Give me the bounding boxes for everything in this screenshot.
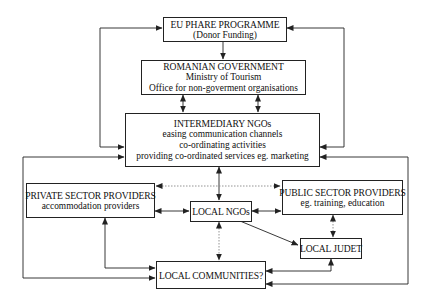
node-local-ngos: LOCAL NGOs — [190, 201, 252, 222]
node-private-sector-providers: PRIVATE SECTOR PROVIDERS accommodation p… — [26, 183, 155, 218]
node-line: Office for non-goverment organisations — [149, 83, 298, 94]
node-line: easing communication channels — [163, 129, 283, 140]
node-subtitle: (Donor Funding) — [193, 30, 257, 41]
node-public-sector-providers: PUBLIC SECTOR PROVIDERS eg. training, ed… — [282, 180, 403, 215]
node-title: LOCAL COMMUNITIES? — [159, 270, 263, 281]
node-line: eg. training, education — [301, 198, 385, 209]
node-title: ROMANIAN GOVERNMENT — [163, 61, 283, 72]
edge-private-communities — [105, 218, 155, 268]
node-title: PUBLIC SECTOR PROVIDERS — [279, 187, 406, 198]
node-line: accommodation providers — [42, 201, 140, 212]
organisation-flow-diagram: EU PHARE PROGRAMME (Donor Funding) ROMAN… — [0, 0, 428, 304]
edge-outer-right — [266, 157, 408, 284]
node-romanian-government: ROMANIAN GOVERNMENT Ministry of Tourism … — [141, 60, 306, 95]
node-title: EU PHARE PROGRAMME — [170, 19, 279, 30]
node-title: LOCAL NGOs — [192, 206, 250, 217]
node-line: providing co-ordinated services eg. mark… — [136, 151, 309, 162]
edge-local-ngos-judet — [240, 221, 298, 245]
node-line: Ministry of Tourism — [186, 72, 262, 83]
node-title: LOCAL JUDET — [300, 243, 362, 254]
node-line: co-ordinating activities — [179, 140, 266, 151]
node-eu-phare-programme: EU PHARE PROGRAMME (Donor Funding) — [163, 17, 287, 42]
node-local-communities: LOCAL COMMUNITIES? — [156, 261, 266, 289]
node-intermediary-ngos: INTERMEDIARY NGOs easing communication c… — [125, 113, 320, 167]
node-title: PRIVATE SECTOR PROVIDERS — [25, 190, 156, 201]
node-title: INTERMEDIARY NGOs — [174, 118, 271, 129]
edge-judet-communities — [266, 259, 331, 271]
node-local-judet: LOCAL JUDET — [300, 238, 362, 259]
